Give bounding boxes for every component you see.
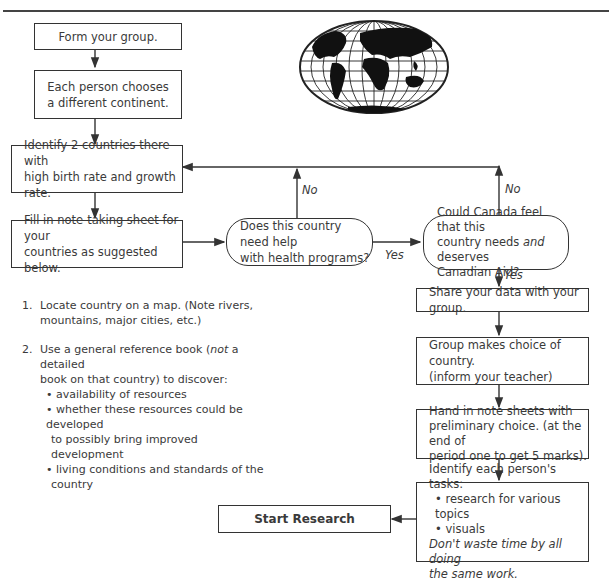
step-identify-countries: Identify 2 countries there with high bir… [11, 145, 183, 193]
step-fill-sheet: Fill in note-taking sheet for your count… [11, 220, 183, 268]
step-share-data-text: Share your data with your group. [429, 284, 588, 316]
step-form-group-text: Form your group. [58, 29, 157, 45]
instruction-bullet: • whether these resources could be devel… [40, 402, 272, 432]
decision-canadian-aid: Could Canada feel that this country need… [423, 215, 569, 270]
instruction-number: 1. [22, 298, 33, 313]
step-choose-continent-line1: Each person chooses [47, 79, 168, 95]
decision-aid-emphasis: and [523, 235, 545, 249]
step-choose-continent-line2: a different continent. [47, 95, 168, 111]
instruction-line: Locate country on a map. (Note rivers, [40, 298, 262, 313]
instruction-item-1: 1. Locate country on a map. (Note rivers… [22, 298, 262, 328]
step-choose-continent: Each person chooses a different continen… [34, 70, 182, 119]
step-hand-in-line1: Hand in note sheets with [429, 404, 588, 419]
step-start-research: Start Research [218, 505, 391, 533]
decision-health-programs: Does this country need help with health … [226, 218, 373, 266]
step-fill-sheet-line1: Fill in note-taking sheet for your [24, 212, 182, 244]
instruction-line: book on that country) to discover: [40, 372, 272, 387]
step-hand-in: Hand in note sheets with preliminary cho… [416, 409, 589, 459]
instruction-line: Use a general reference book (not a deta… [40, 342, 272, 372]
step-identify-tasks: Identify each person's tasks: • research… [416, 482, 589, 562]
instruction-bullet: • living conditions and standards of the [40, 462, 272, 477]
instruction-line: mountains, major cities, etc.) [40, 313, 262, 328]
label-no-aid: No [505, 182, 521, 196]
step-group-choice-line2: (inform your teacher) [429, 369, 588, 385]
decision-aid-line1: Could Canada feel that this [437, 205, 568, 235]
step-identify-countries-line1: Identify 2 countries there with [24, 137, 182, 169]
step-start-research-text: Start Research [254, 511, 355, 527]
world-map-globe-icon [298, 19, 450, 115]
step-group-choice-line1: Group makes choice of country. [429, 337, 588, 369]
task-note-line2: the same work. [429, 567, 588, 582]
step-identify-countries-line2: high birth rate and growth rate. [24, 169, 182, 201]
step-group-choice: Group makes choice of country. (inform y… [416, 337, 589, 385]
decision-health-line1: Does this country need help [240, 218, 372, 250]
decision-aid-line2: country needs and deserves [437, 235, 568, 265]
label-no-health: No [302, 183, 318, 197]
decision-aid-line3: Canadian Aid? [437, 265, 568, 280]
step-hand-in-line2: preliminary choice. (at the end of [429, 419, 588, 449]
label-yes-health: Yes [385, 248, 404, 262]
step-share-data: Share your data with your group. [416, 288, 589, 312]
task-bullet: • visuals [429, 522, 588, 537]
instruction-bullet: • availability of resources [40, 387, 272, 402]
label-yes-aid: Yes [504, 268, 523, 282]
step-form-group: Form your group. [34, 23, 182, 50]
instruction-number: 2. [22, 342, 33, 357]
step-fill-sheet-line2: countries as suggested below. [24, 244, 182, 276]
step-identify-tasks-title: Identify each person's tasks: [429, 462, 588, 492]
decision-health-line2: with health programs? [240, 250, 372, 266]
instruction-item-2: 2. Use a general reference book (not a d… [22, 342, 272, 492]
instruction-bullet-cont: to possibly bring improved development [40, 432, 272, 462]
task-bullet: • research for various topics [429, 492, 588, 522]
instruction-bullet-cont: country [40, 477, 272, 492]
task-note-line1: Don't waste time by all doing [429, 537, 588, 567]
